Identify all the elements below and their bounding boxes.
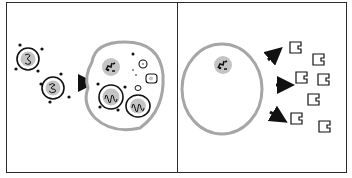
- small-cell-1: [14, 43, 43, 72]
- released-particles: [290, 42, 330, 132]
- diagram-canvas: [0, 0, 352, 178]
- large-cell-releasing: [182, 44, 262, 134]
- large-cell-engulfing: [86, 42, 163, 130]
- small-cell-2: [39, 72, 70, 103]
- release-arrows: [268, 53, 286, 118]
